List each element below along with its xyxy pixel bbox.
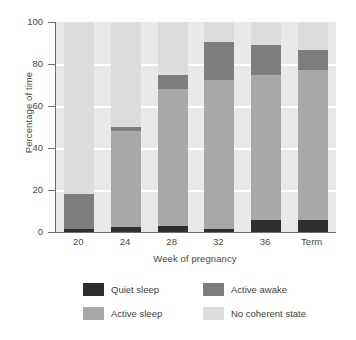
bar-segment-active-awake [251,45,281,74]
x-axis-tick-labels: 2024283236Term [55,236,335,252]
bar-segment-active-awake [111,127,141,131]
y-axis-tick-label: 20 [17,185,43,195]
y-axis-tick-label: 40 [17,143,43,153]
legend-swatch [83,307,104,320]
bar-36 [251,22,281,232]
legend-swatch [203,307,224,320]
bar-segment-active-sleep [204,80,234,229]
y-axis-tick-mark [48,22,55,23]
stacked-bar-chart-figure: Percentage of time 100806040200 20242832… [0,0,356,340]
y-axis-tick-label: 100 [17,17,43,27]
bar-segment-active-awake [298,50,328,70]
bar-term [298,22,328,232]
bar-28 [158,22,188,232]
x-axis-line [55,232,336,233]
bar-segment-quiet-sleep [251,220,281,232]
x-axis-tick-label: Term [285,236,339,247]
bar-segment-no-coherent-state [64,22,94,194]
bar-segment-no-coherent-state [158,22,188,75]
gridline [56,190,336,192]
legend-label: No coherent state [231,308,306,319]
bar-20 [64,22,94,232]
y-axis-tick-mark [48,190,55,191]
x-axis-title: Week of pregnancy [55,253,335,264]
bar-segment-no-coherent-state [298,22,328,50]
y-axis-tick-label: 0 [17,227,43,237]
bar-segment-active-awake [204,42,234,80]
legend-label: Active sleep [111,308,162,319]
bar-32 [204,22,234,232]
bar-segment-active-awake [64,194,94,229]
bar-segment-no-coherent-state [111,22,141,127]
y-axis-tick-mark [48,148,55,149]
y-axis-tick-mark [48,232,55,233]
bar-segment-active-sleep [111,131,141,227]
gridline [56,64,336,66]
legend-label: Active awake [231,284,287,295]
bar-segment-active-awake [158,75,188,90]
legend-label: Quiet sleep [111,284,159,295]
bar-segment-active-sleep [158,89,188,226]
plot-area [55,22,336,232]
bar-segment-quiet-sleep [298,220,328,232]
y-axis-tick-label: 80 [17,59,43,69]
y-axis-tick-marks [48,0,55,340]
bar-segment-no-coherent-state [204,22,234,42]
gridline [56,106,336,108]
y-axis-tick-mark [48,106,55,107]
y-axis-tick-labels: 100806040200 [17,0,43,340]
legend-swatch [83,283,104,296]
legend-swatch [203,283,224,296]
bar-segment-active-sleep [298,70,328,220]
bar-segment-no-coherent-state [251,22,281,45]
bar-24 [111,22,141,232]
y-axis-tick-mark [48,64,55,65]
bar-segment-active-sleep [251,75,281,221]
gridline [56,148,336,150]
y-axis-tick-label: 60 [17,101,43,111]
chart-legend: Quiet sleepActive awakeActive sleepNo co… [83,283,323,329]
